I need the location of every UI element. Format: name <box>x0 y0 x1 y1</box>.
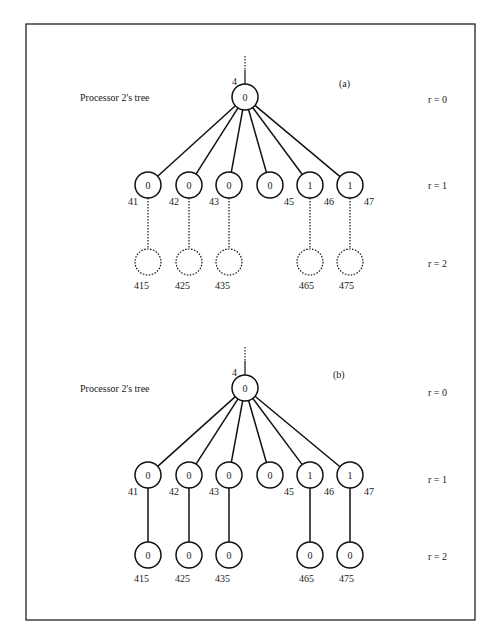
node-475 <box>337 249 363 275</box>
node-415-value: 0 <box>146 550 151 561</box>
node-41-id: 41 <box>128 486 138 497</box>
node-46-value: 1 <box>308 180 313 191</box>
node-425 <box>176 249 202 275</box>
node-46-value: 1 <box>308 470 313 481</box>
panel-label: (b) <box>333 369 345 381</box>
node-43-value: 0 <box>227 470 232 481</box>
edge-root-41 <box>158 397 236 467</box>
level-label-r2: r = 2 <box>428 551 447 562</box>
node-root-id: 4 <box>232 367 237 378</box>
node-47-id: 47 <box>364 196 374 207</box>
tree-b: 04(b)Processor 2's treer = 0r = 1r = 204… <box>80 347 447 584</box>
node-475-value: 0 <box>348 550 353 561</box>
node-root-value: 0 <box>243 92 248 103</box>
tree-a: 04(a)Processor 2's treer = 0r = 1r = 204… <box>80 56 447 291</box>
node-42-id: 42 <box>169 196 179 207</box>
node-42-value: 0 <box>187 470 192 481</box>
edge-root-47 <box>255 396 340 466</box>
node-43-id: 43 <box>209 486 219 497</box>
node-41-value: 0 <box>146 470 151 481</box>
node-435 <box>216 249 242 275</box>
node-45-id: 45 <box>284 486 294 497</box>
edge-root-43 <box>231 401 242 462</box>
node-45-value: 0 <box>268 180 273 191</box>
node-465 <box>297 249 323 275</box>
node-47-id: 47 <box>364 486 374 497</box>
node-435-value: 0 <box>227 550 232 561</box>
node-435-id: 435 <box>215 573 230 584</box>
edge-root-46 <box>253 398 302 464</box>
edge-root-46 <box>253 107 303 174</box>
node-43-value: 0 <box>227 180 232 191</box>
node-465-value: 0 <box>308 550 313 561</box>
node-475-id: 475 <box>339 573 354 584</box>
node-root-id: 4 <box>232 76 237 87</box>
node-root-value: 0 <box>243 383 248 394</box>
node-435-id: 435 <box>215 280 230 291</box>
edge-root-41 <box>158 106 236 177</box>
node-47-value: 1 <box>348 470 353 481</box>
node-425-id: 425 <box>175 280 190 291</box>
edge-root-45 <box>249 400 267 462</box>
edge-root-45 <box>249 110 267 173</box>
node-46-id: 46 <box>324 486 334 497</box>
node-465-id: 465 <box>299 573 314 584</box>
node-41-value: 0 <box>146 180 151 191</box>
node-425-id: 425 <box>175 573 190 584</box>
node-415-id: 415 <box>134 573 149 584</box>
level-label-r2: r = 2 <box>428 258 447 269</box>
level-label-r0: r = 0 <box>428 387 447 398</box>
panel-label: (a) <box>339 78 350 90</box>
edge-root-43 <box>231 110 242 172</box>
node-42-id: 42 <box>169 486 179 497</box>
edge-root-42 <box>196 399 238 464</box>
edge-root-47 <box>255 105 340 176</box>
node-425-value: 0 <box>187 550 192 561</box>
node-475-id: 475 <box>339 280 354 291</box>
node-415-id: 415 <box>134 280 149 291</box>
node-45-id: 45 <box>284 196 294 207</box>
node-465-id: 465 <box>299 280 314 291</box>
node-46-id: 46 <box>324 196 334 207</box>
node-45-value: 0 <box>268 470 273 481</box>
node-41-id: 41 <box>128 196 138 207</box>
tree-title: Processor 2's tree <box>80 92 150 103</box>
edge-root-42 <box>196 108 238 174</box>
processor-tree-diagram: 04(a)Processor 2's treer = 0r = 1r = 204… <box>0 0 497 643</box>
node-43-id: 43 <box>209 196 219 207</box>
level-label-r0: r = 0 <box>428 94 447 105</box>
level-label-r1: r = 1 <box>428 180 447 191</box>
node-42-value: 0 <box>187 180 192 191</box>
figure-frame <box>26 24 475 620</box>
level-label-r1: r = 1 <box>428 474 447 485</box>
tree-title: Processor 2's tree <box>80 383 150 394</box>
node-47-value: 1 <box>348 180 353 191</box>
node-415 <box>135 249 161 275</box>
